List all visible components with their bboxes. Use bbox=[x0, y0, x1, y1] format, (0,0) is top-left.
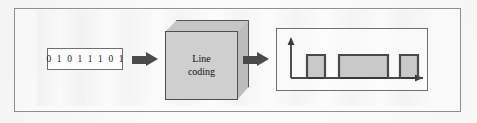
binary-data-box: 0 1 0 1 1 1 0 1 bbox=[47, 48, 123, 70]
binary-data-label: 0 1 0 1 1 1 0 1 bbox=[45, 54, 125, 64]
pulse-fill-3 bbox=[400, 55, 418, 78]
line-coding-block: Line coding bbox=[165, 20, 249, 100]
arrow-head bbox=[146, 52, 158, 66]
signal-waveform-panel bbox=[276, 28, 428, 91]
signal-pulse-fills bbox=[307, 55, 418, 78]
y-axis bbox=[288, 37, 295, 78]
line-coding-label-line1: Line bbox=[192, 53, 210, 65]
arrow-head bbox=[257, 52, 269, 66]
arrow-right-icon-output bbox=[243, 52, 269, 67]
line-coding-label-line2: coding bbox=[188, 66, 215, 78]
line-coding-diagram: 0 1 0 1 1 1 0 1 Line coding bbox=[0, 0, 477, 123]
pulse-fill-2 bbox=[339, 55, 388, 78]
y-axis-arrowhead bbox=[288, 37, 295, 45]
arrow-right-icon-input bbox=[132, 52, 158, 67]
signal-waveform-chart bbox=[277, 29, 429, 92]
block-front-face: Line coding bbox=[165, 31, 238, 100]
pulse-fill-1 bbox=[307, 55, 325, 78]
